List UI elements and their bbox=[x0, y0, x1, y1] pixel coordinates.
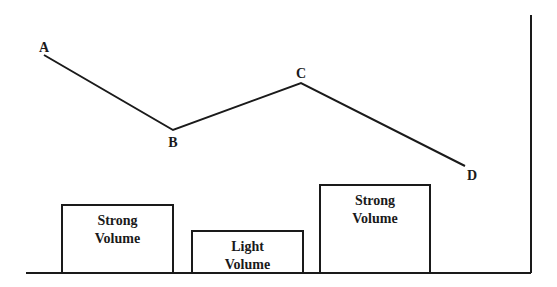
volume-bar: StrongVolume bbox=[62, 205, 173, 273]
diagram-svg: ABCD StrongVolumeLightVolumeStrongVolume bbox=[0, 0, 557, 287]
volume-bar-label-line1: Strong bbox=[97, 213, 137, 228]
volume-bar-label-line2: Volume bbox=[225, 257, 270, 272]
volume-bar: LightVolume bbox=[192, 231, 303, 273]
volume-bars: StrongVolumeLightVolumeStrongVolume bbox=[62, 185, 430, 273]
point-labels: ABCD bbox=[39, 40, 477, 183]
price-volume-diagram: ABCD StrongVolumeLightVolumeStrongVolume bbox=[0, 0, 557, 287]
price-line bbox=[44, 55, 465, 166]
volume-bar-label-line2: Volume bbox=[352, 211, 397, 226]
volume-bar-label-line2: Volume bbox=[95, 231, 140, 246]
point-label-d: D bbox=[467, 168, 477, 183]
volume-bar: StrongVolume bbox=[320, 185, 430, 273]
point-label-a: A bbox=[39, 40, 50, 55]
point-label-c: C bbox=[296, 66, 306, 81]
point-label-b: B bbox=[168, 135, 177, 150]
volume-bar-label-line1: Strong bbox=[355, 193, 395, 208]
volume-bar-label-line1: Light bbox=[231, 239, 264, 254]
